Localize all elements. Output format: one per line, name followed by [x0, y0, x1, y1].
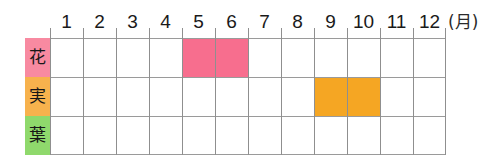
- grid-vline-1: [83, 28, 84, 155]
- grid-vline-5: [215, 28, 216, 155]
- grid-vline-4: [182, 28, 183, 155]
- grid-vline-7: [281, 28, 282, 155]
- month-label-8: 8: [281, 8, 314, 36]
- row-label-column: 花 実 葉: [25, 38, 50, 155]
- month-unit-label: (月): [448, 8, 478, 36]
- month-label-4: 4: [149, 8, 182, 36]
- grid-vline-11: [413, 28, 414, 155]
- grid-vline-2: [116, 28, 117, 155]
- grid-vline-10: [380, 28, 381, 155]
- month-label-7: 7: [248, 8, 281, 36]
- grid-vline-3: [149, 28, 150, 155]
- month-label-9: 9: [314, 8, 347, 36]
- grid-vline-6: [248, 28, 249, 155]
- row-label-fruit: 実: [25, 77, 50, 116]
- row-label-flower: 花: [25, 38, 50, 77]
- month-label-5: 5: [182, 8, 215, 36]
- calendar-grid: [50, 38, 446, 155]
- month-label-11: 11: [380, 8, 413, 36]
- month-label-10: 10: [347, 8, 380, 36]
- month-label-1: 1: [50, 8, 83, 36]
- row-label-leaf: 葉: [25, 116, 50, 155]
- grid-vline-0: [50, 28, 51, 155]
- grid-vline-8: [314, 28, 315, 155]
- grid-vline-9: [347, 28, 348, 155]
- month-label-12: 12: [413, 8, 446, 36]
- grid-vline-12: [445, 28, 446, 155]
- seasonal-calendar-chart: 1 2 3 4 5 6 7 8 9 10 11 12 (月) 花 実 葉: [0, 0, 483, 165]
- month-label-3: 3: [116, 8, 149, 36]
- month-label-2: 2: [83, 8, 116, 36]
- month-label-6: 6: [215, 8, 248, 36]
